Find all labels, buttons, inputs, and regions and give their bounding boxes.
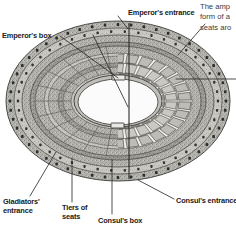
amphitheatre-structure (6, 21, 230, 181)
callout-tiers-of-seats: Tiers of seats (62, 203, 87, 221)
callout-consuls-box: Consul's box (98, 216, 142, 225)
consuls-box-marker (111, 123, 124, 128)
callout-emperors-entrance: Emperor's entrance (128, 8, 194, 17)
illustration-page: Emperor's box Emperor's entrance Gladiat… (0, 0, 236, 232)
leader-consuls-entrance (138, 180, 174, 199)
callout-consuls-entrance: Consul's entrance (176, 196, 236, 205)
clipped-body-paragraph: The amp form of a seats aro (200, 2, 231, 33)
callout-emperors-box: Emperor's box (2, 31, 52, 40)
callout-gladiators-entrance: Gladiators' entrance (3, 197, 40, 215)
